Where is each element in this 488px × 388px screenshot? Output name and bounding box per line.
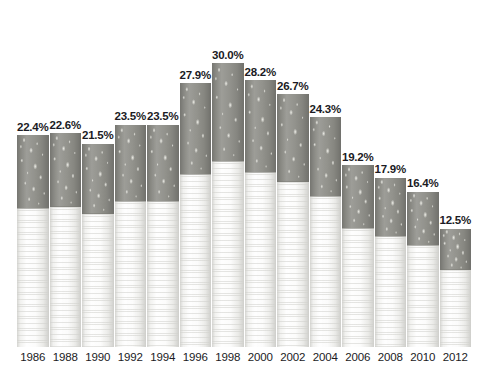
- cigarette-bar[interactable]: [277, 94, 309, 347]
- bar-value-label: 30.0%: [212, 49, 244, 61]
- cigarette-bar[interactable]: [212, 63, 244, 347]
- bar-column[interactable]: 19.2%: [342, 0, 374, 347]
- cigarette-tobacco-section: [440, 229, 472, 270]
- cigarette-bar[interactable]: [50, 133, 82, 347]
- cigarette-seam-line: [82, 213, 114, 214]
- cigarette-seam-line: [50, 206, 82, 207]
- bar-column[interactable]: 28.2%: [245, 0, 277, 347]
- cigarette-seam-line: [212, 161, 244, 162]
- cigarette-tobacco-section: [212, 63, 244, 161]
- cigarette-bar[interactable]: [147, 125, 179, 347]
- bar-value-label: 27.9%: [179, 69, 211, 81]
- bar-column[interactable]: 26.7%: [277, 0, 309, 347]
- cigarette-seam-line: [310, 196, 342, 197]
- bar-column[interactable]: 16.4%: [407, 0, 439, 347]
- cigarette-filter-section: [115, 201, 147, 347]
- cigarette-bar[interactable]: [407, 192, 439, 347]
- x-axis-tick-label: 2012: [435, 351, 477, 363]
- cigarette-seam-line: [375, 236, 407, 237]
- bar-value-label: 22.6%: [49, 119, 81, 131]
- bar-column[interactable]: 30.0%: [212, 0, 244, 347]
- cigarette-seam-line: [17, 208, 49, 209]
- cigarette-filter-section: [17, 208, 49, 347]
- cigarette-filter-section: [245, 172, 277, 347]
- bar-column[interactable]: 22.4%: [17, 0, 49, 347]
- cigarette-seam-line: [342, 228, 374, 229]
- cigarette-bar[interactable]: [115, 125, 147, 347]
- cigarette-tobacco-section: [310, 117, 342, 196]
- bar-column[interactable]: 24.3%: [310, 0, 342, 347]
- bar-value-label: 17.9%: [374, 163, 406, 175]
- cigarette-seam-line: [407, 245, 439, 246]
- cigarette-bar-chart: 22.4%22.6%21.5%23.5%23.5%27.9%30.0%28.2%…: [0, 0, 488, 388]
- cigarette-seam-line: [115, 201, 147, 202]
- bar-value-label: 23.5%: [147, 110, 179, 122]
- bar-column[interactable]: 17.9%: [375, 0, 407, 347]
- cigarette-tobacco-section: [407, 192, 439, 246]
- bar-value-label: 16.4%: [407, 177, 439, 189]
- bar-column[interactable]: 21.5%: [82, 0, 114, 347]
- cigarette-tobacco-section: [375, 178, 407, 236]
- cigarette-seam-line: [147, 201, 179, 202]
- bar-column[interactable]: 22.6%: [50, 0, 82, 347]
- x-axis: 1986198819901992199419961998200020022004…: [0, 347, 488, 388]
- cigarette-filter-section: [407, 245, 439, 347]
- cigarette-seam-line: [245, 172, 277, 173]
- cigarette-bar[interactable]: [17, 135, 49, 347]
- bar-column[interactable]: 12.5%: [440, 0, 472, 347]
- cigarette-filter-section: [82, 214, 114, 347]
- cigarette-filter-section: [50, 207, 82, 347]
- bar-value-label: 19.2%: [342, 151, 374, 163]
- cigarette-bar[interactable]: [342, 165, 374, 347]
- bar-value-label: 21.5%: [82, 129, 114, 141]
- cigarette-seam-line: [180, 174, 212, 175]
- cigarette-filter-section: [180, 174, 212, 347]
- cigarette-filter-section: [342, 228, 374, 347]
- cigarette-tobacco-section: [17, 135, 49, 208]
- bar-value-label: 26.7%: [277, 80, 309, 92]
- cigarette-filter-section: [440, 270, 472, 347]
- cigarette-filter-section: [310, 196, 342, 347]
- cigarette-tobacco-section: [342, 165, 374, 228]
- cigarette-filter-section: [277, 182, 309, 347]
- cigarette-filter-section: [147, 201, 179, 347]
- bar-value-label: 12.5%: [439, 214, 471, 226]
- bar-value-label: 22.4%: [17, 121, 49, 133]
- cigarette-tobacco-section: [245, 80, 277, 172]
- cigarette-tobacco-section: [180, 83, 212, 174]
- bar-value-label: 28.2%: [244, 66, 276, 78]
- cigarette-bar[interactable]: [245, 80, 277, 347]
- plot-area: 22.4%22.6%21.5%23.5%23.5%27.9%30.0%28.2%…: [0, 0, 488, 347]
- cigarette-bar[interactable]: [82, 144, 114, 347]
- cigarette-tobacco-section: [50, 133, 82, 207]
- cigarette-bar[interactable]: [180, 83, 212, 347]
- bar-column[interactable]: 23.5%: [115, 0, 147, 347]
- cigarette-filter-section: [375, 236, 407, 347]
- cigarette-filter-section: [212, 161, 244, 347]
- bar-column[interactable]: 27.9%: [180, 0, 212, 347]
- bar-column[interactable]: 23.5%: [147, 0, 179, 347]
- cigarette-seam-line: [440, 269, 472, 270]
- cigarette-tobacco-section: [115, 125, 147, 202]
- cigarette-tobacco-section: [277, 94, 309, 181]
- cigarette-tobacco-section: [147, 125, 179, 202]
- cigarette-bar[interactable]: [375, 178, 407, 347]
- bar-value-label: 24.3%: [309, 103, 341, 115]
- cigarette-seam-line: [277, 181, 309, 182]
- cigarette-tobacco-section: [82, 144, 114, 214]
- bar-value-label: 23.5%: [114, 110, 146, 122]
- cigarette-bar[interactable]: [440, 229, 472, 347]
- cigarette-bar[interactable]: [310, 117, 342, 347]
